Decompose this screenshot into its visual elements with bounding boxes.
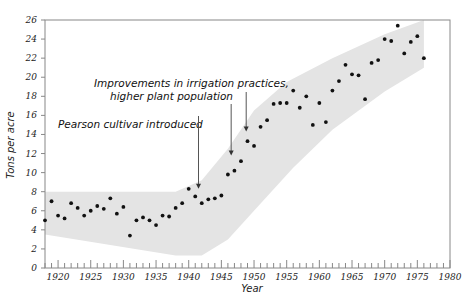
data-point <box>331 89 335 93</box>
data-point <box>161 214 165 218</box>
y-tick-label: 6 <box>31 206 37 216</box>
annotation-irrigation-line2: higher plant population <box>110 90 233 102</box>
x-tick-label: 1975 <box>406 272 429 282</box>
data-point <box>121 205 125 209</box>
y-tick-label: 8 <box>31 187 37 197</box>
data-point <box>246 139 250 143</box>
y-tick-label: 24 <box>25 34 38 44</box>
y-tick-label: 18 <box>26 91 38 101</box>
data-point <box>69 201 73 205</box>
data-point <box>115 212 119 216</box>
data-point <box>226 173 230 177</box>
y-tick-label: 2 <box>30 244 37 254</box>
data-point <box>219 194 223 198</box>
data-point <box>43 218 47 222</box>
data-point <box>357 73 361 77</box>
y-tick-label: 12 <box>26 149 38 159</box>
data-point <box>135 218 139 222</box>
x-tick-label: 1935 <box>145 272 168 282</box>
data-point <box>415 34 419 38</box>
data-point <box>239 159 243 163</box>
x-tick-label: 1925 <box>79 272 102 282</box>
y-tick-label: 22 <box>25 53 38 63</box>
data-point <box>370 61 374 65</box>
data-point <box>206 197 210 201</box>
annotation-irrigation-line1: Improvements in irrigation practices, <box>94 77 289 89</box>
data-point <box>383 37 387 41</box>
x-tick-label: 1970 <box>373 272 396 282</box>
data-point <box>291 89 295 93</box>
data-point <box>344 63 348 67</box>
x-tick-label: 1920 <box>47 272 70 282</box>
data-point <box>259 125 263 129</box>
data-point <box>174 206 178 210</box>
data-point <box>193 195 197 199</box>
data-point <box>154 223 158 227</box>
data-point <box>422 56 426 60</box>
data-point <box>233 169 237 173</box>
y-tick-label: 0 <box>31 263 37 273</box>
data-point <box>252 144 256 148</box>
data-point <box>272 102 276 106</box>
x-tick-label: 1965 <box>341 272 364 282</box>
data-point <box>324 120 328 124</box>
data-point <box>376 58 380 62</box>
data-point <box>402 51 406 55</box>
data-point <box>409 40 413 44</box>
x-tick-label: 1945 <box>210 272 233 282</box>
data-point <box>265 118 269 122</box>
data-point <box>350 72 354 76</box>
data-point <box>82 214 86 218</box>
data-point <box>389 39 393 43</box>
y-axis-title: Tons per acre <box>5 111 16 178</box>
data-point <box>63 217 67 221</box>
data-point <box>89 209 93 213</box>
data-point <box>128 234 132 238</box>
data-point <box>304 94 308 98</box>
x-tick-label: 1950 <box>243 272 266 282</box>
data-point <box>317 101 321 105</box>
data-point <box>187 187 191 191</box>
data-point <box>278 101 282 105</box>
data-point <box>337 79 341 83</box>
data-point <box>180 201 184 205</box>
data-point <box>56 214 60 218</box>
y-tick-label: 16 <box>26 110 38 120</box>
data-point <box>311 123 315 127</box>
data-point <box>95 204 99 208</box>
trend-band <box>45 20 424 256</box>
x-tick-label: 1940 <box>177 272 200 282</box>
data-point <box>285 101 289 105</box>
data-point <box>363 97 367 101</box>
data-point <box>148 218 152 222</box>
x-tick-label: 1930 <box>112 272 135 282</box>
data-point <box>167 215 171 219</box>
x-axis-title: Year <box>241 283 263 294</box>
data-point <box>141 216 145 220</box>
annotation-pearson: Pearson cultivar introduced <box>58 118 203 130</box>
data-point <box>76 206 80 210</box>
x-tick-label: 1960 <box>308 272 331 282</box>
data-point <box>108 196 112 200</box>
data-point <box>396 24 400 28</box>
data-point <box>298 106 302 110</box>
data-point <box>200 201 204 205</box>
yield-chart: 0246810121416182022242619201925193019351… <box>0 0 471 307</box>
x-tick-label: 1955 <box>275 272 298 282</box>
y-tick-label: 26 <box>25 15 38 25</box>
y-tick-label: 4 <box>30 225 37 235</box>
x-tick-label: 1980 <box>439 272 462 282</box>
y-tick-label: 20 <box>25 72 38 82</box>
y-tick-label: 10 <box>26 168 38 178</box>
data-point <box>102 207 106 211</box>
trend-band-shape <box>45 20 424 256</box>
data-point <box>50 199 54 203</box>
y-tick-label: 14 <box>26 129 38 139</box>
data-point <box>213 196 217 200</box>
